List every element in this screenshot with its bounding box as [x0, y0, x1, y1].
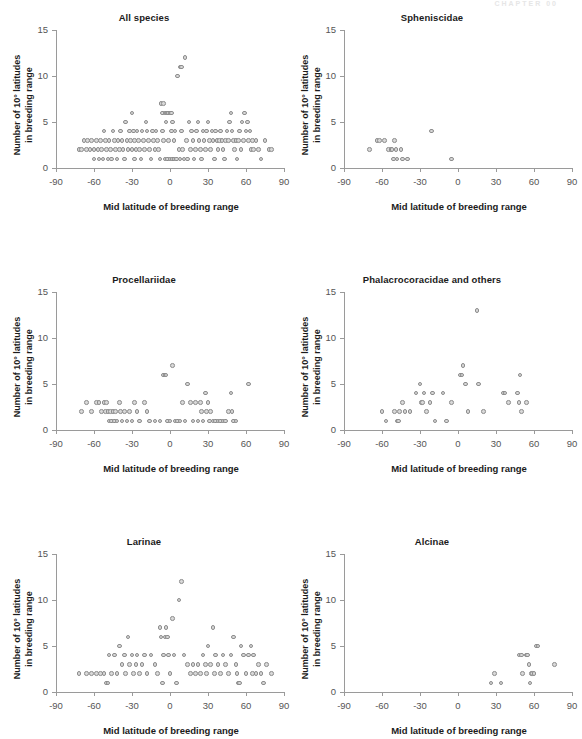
data-point — [199, 409, 204, 414]
x-axis-tick — [572, 692, 573, 696]
data-point — [418, 382, 423, 387]
data-point — [123, 120, 128, 125]
data-point — [141, 138, 146, 143]
data-point — [102, 129, 107, 134]
data-point — [524, 400, 529, 405]
data-point — [144, 120, 149, 125]
x-tick-label: 60 — [519, 176, 549, 187]
x-tick-label: -60 — [367, 176, 397, 187]
data-point — [430, 391, 435, 396]
data-point — [226, 138, 231, 143]
x-tick-label: -60 — [367, 700, 397, 711]
data-point — [84, 400, 89, 405]
y-axis-label-line2: in breeding range — [24, 46, 40, 164]
x-tick-label: 30 — [481, 700, 511, 711]
data-point — [234, 662, 239, 667]
data-point — [251, 653, 256, 658]
data-point — [221, 653, 226, 658]
x-axis-label: Mid latitude of breeding range — [55, 201, 287, 212]
data-point — [168, 671, 173, 676]
data-point — [130, 419, 135, 424]
data-point — [135, 409, 140, 414]
x-axis-tick — [284, 692, 285, 696]
data-point — [420, 400, 425, 405]
data-point — [188, 671, 193, 676]
data-point — [168, 419, 173, 424]
data-point — [164, 120, 169, 125]
data-point — [206, 400, 211, 405]
y-tick-label: 10 — [314, 70, 336, 81]
data-point — [153, 419, 158, 424]
x-axis-label: Mid latitude of breeding range — [55, 463, 287, 474]
data-point — [172, 653, 177, 658]
data-point — [234, 419, 239, 424]
panel-title: All species — [0, 12, 288, 23]
data-point — [183, 419, 188, 424]
data-point — [89, 671, 94, 676]
data-point — [208, 147, 213, 152]
y-tick-label: 15 — [314, 24, 336, 35]
data-point — [180, 400, 185, 405]
data-point — [264, 662, 269, 667]
data-point — [145, 409, 150, 414]
data-point — [206, 120, 211, 125]
data-point — [191, 662, 196, 667]
x-tick-label: -90 — [41, 438, 71, 449]
data-point — [166, 653, 171, 658]
data-point — [130, 653, 135, 658]
x-axis-tick — [246, 168, 247, 172]
data-point — [203, 147, 208, 152]
data-point — [118, 129, 123, 134]
x-axis-tick — [496, 430, 497, 434]
data-point — [120, 138, 125, 143]
data-point — [525, 653, 530, 658]
data-point — [161, 653, 166, 658]
data-point — [518, 373, 523, 378]
data-point — [193, 671, 198, 676]
data-point — [154, 129, 159, 134]
data-point — [170, 120, 175, 125]
data-point — [198, 671, 203, 676]
x-tick-label: -30 — [117, 176, 147, 187]
data-point — [202, 138, 207, 143]
x-axis-tick — [572, 168, 573, 172]
y-tick-label: 15 — [314, 286, 336, 297]
x-axis-tick — [534, 168, 535, 172]
data-point — [241, 653, 246, 658]
data-point — [492, 671, 497, 676]
x-tick-label: 90 — [557, 700, 582, 711]
x-tick-label: -30 — [405, 700, 435, 711]
data-point — [164, 373, 169, 378]
data-point — [395, 157, 400, 162]
data-point — [196, 120, 201, 125]
data-point — [112, 653, 117, 658]
data-point — [213, 129, 218, 134]
data-point — [135, 653, 140, 658]
data-point — [123, 671, 128, 676]
y-tick-label: 5 — [26, 378, 48, 389]
data-point — [142, 400, 147, 405]
data-point — [193, 147, 198, 152]
y-axis-line — [344, 292, 345, 430]
data-point — [178, 419, 183, 424]
data-point — [137, 419, 142, 424]
y-axis-tick — [340, 30, 344, 31]
data-point — [136, 138, 141, 143]
data-point — [449, 157, 454, 162]
data-point — [113, 409, 118, 414]
data-point — [122, 653, 127, 658]
data-point — [428, 400, 433, 405]
data-point — [236, 138, 241, 143]
x-tick-label: -90 — [329, 176, 359, 187]
y-tick-label: 5 — [26, 116, 48, 127]
data-point — [107, 653, 112, 658]
x-axis-tick — [382, 168, 383, 172]
data-point — [216, 662, 221, 667]
data-point — [221, 147, 226, 152]
x-axis-tick — [56, 168, 57, 172]
scatter-panel: LarinaeNumber of 10° latitudesin breedin… — [0, 532, 288, 739]
y-tick-label: 0 — [314, 686, 336, 697]
data-point — [161, 101, 166, 106]
data-point — [229, 391, 234, 396]
data-point — [158, 419, 163, 424]
